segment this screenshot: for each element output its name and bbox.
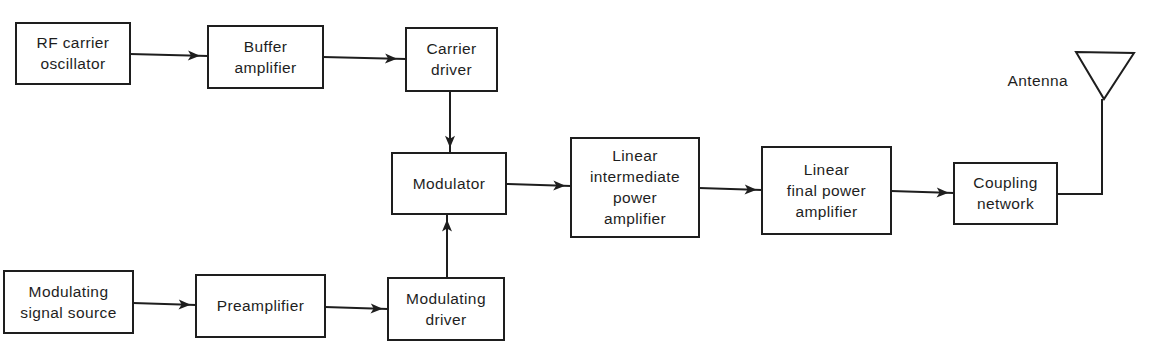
antenna-feed-line: [1057, 99, 1102, 194]
block-carrier-driver: Carrierdriver: [406, 28, 497, 91]
block-label-line: final power: [787, 182, 866, 199]
block-frame: [388, 278, 504, 340]
arrow-rf-carrier-oscillator-to-buffer-amplifier: [130, 50, 208, 60]
block-linear-intermediate-power-amplifier: Linearintermediatepoweramplifier: [571, 138, 699, 237]
arrow-preamplifier-to-modulating-driver: [325, 303, 388, 313]
block-label-line: driver: [431, 61, 472, 78]
block-frame: [4, 271, 133, 333]
block-label-line: driver: [425, 311, 466, 328]
block-frame: [208, 26, 323, 88]
block-label-line: Linear: [612, 147, 658, 164]
block-label-line: intermediate: [590, 168, 680, 185]
block-label-line: network: [977, 195, 1034, 212]
block-modulating-signal-source: Modulatingsignal source: [4, 271, 133, 333]
block-label-line: Modulator: [413, 175, 486, 192]
block-linear-final-power-amplifier: Linearfinal poweramplifier: [762, 147, 891, 234]
block-frame: [954, 163, 1057, 224]
block-label-line: amplifier: [604, 210, 666, 227]
antenna-icon: [1076, 52, 1134, 99]
diagram-blocks: RF carrieroscillatorBufferamplifierCarri…: [4, 23, 1057, 340]
block-label-line: Carrier: [426, 40, 476, 57]
block-label-line: amplifier: [234, 59, 296, 76]
block-rf-carrier-oscillator: RF carrieroscillator: [16, 23, 130, 84]
block-label-line: RF carrier: [37, 34, 110, 51]
block-label-line: Preamplifier: [217, 297, 305, 314]
arrow-modulator-to-linear-intermediate-power-amplifier: [506, 180, 571, 190]
block-label-line: Linear: [804, 161, 850, 178]
block-label-line: signal source: [20, 304, 117, 321]
arrow-carrier-driver-to-modulator: [445, 91, 455, 153]
arrow-linear-intermediate-power-amplifier-to-linear-final-power-amplifier: [699, 184, 762, 194]
antenna-label: Antenna: [1007, 72, 1068, 89]
block-frame: [16, 23, 130, 84]
block-preamplifier: Preamplifier: [196, 275, 325, 337]
block-label-line: oscillator: [40, 55, 105, 72]
block-modulating-driver: Modulatingdriver: [388, 278, 504, 340]
transmitter-block-diagram: RF carrieroscillatorBufferamplifierCarri…: [0, 0, 1153, 363]
block-label-line: power: [613, 189, 657, 206]
block-label-line: Modulating: [29, 283, 109, 300]
arrow-modulating-signal-source-to-preamplifier: [133, 299, 196, 309]
block-label-line: Buffer: [244, 38, 287, 55]
block-modulator: Modulator: [392, 153, 506, 214]
arrow-modulating-driver-to-modulator: [442, 214, 452, 278]
block-frame: [406, 28, 497, 91]
arrow-buffer-amplifier-to-carrier-driver: [323, 53, 406, 63]
block-label-line: amplifier: [795, 203, 857, 220]
block-label-line: Modulating: [406, 290, 486, 307]
block-label-line: Coupling: [973, 174, 1037, 191]
block-coupling-network: Couplingnetwork: [954, 163, 1057, 224]
block-buffer-amplifier: Bufferamplifier: [208, 26, 323, 88]
arrow-linear-final-power-amplifier-to-coupling-network: [891, 187, 954, 197]
